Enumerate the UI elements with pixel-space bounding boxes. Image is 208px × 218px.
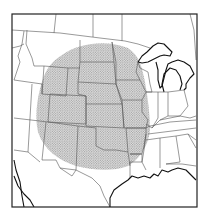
province-line <box>190 14 196 60</box>
pacific-coast <box>14 160 24 207</box>
georgia <box>176 134 196 148</box>
utah-line <box>28 84 32 152</box>
canada-border <box>12 30 150 48</box>
tennessee <box>148 128 196 134</box>
kentucky-north <box>152 116 196 128</box>
indiana <box>158 92 168 120</box>
lake-michigan-shore <box>156 60 194 90</box>
baja-coast <box>14 176 34 207</box>
texas-west <box>60 168 110 207</box>
alabama <box>160 136 180 164</box>
florida-line <box>166 164 196 166</box>
idaho-montana <box>26 30 44 66</box>
washington-oregon <box>12 44 24 48</box>
carolinas <box>188 134 196 140</box>
michigan-peninsula <box>162 68 182 92</box>
gulf-coast <box>110 168 196 207</box>
mississippi <box>146 138 160 168</box>
california-line <box>14 150 40 162</box>
nevada-utah <box>14 80 42 94</box>
ohio <box>168 90 188 116</box>
map-figure: Outline map of the central and eastern U… <box>0 0 208 218</box>
idaho-border <box>14 31 24 80</box>
us-map-svg <box>0 0 208 218</box>
province-line <box>54 14 56 33</box>
